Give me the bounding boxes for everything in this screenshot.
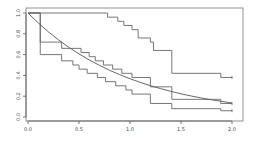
x-tick-label: 1.5 bbox=[177, 126, 185, 132]
y-axis: 0.00.20.40.60.81.0 bbox=[15, 9, 26, 121]
km-upper bbox=[28, 13, 232, 77]
exponential-curve bbox=[28, 13, 232, 103]
x-tick-label: 2.0 bbox=[228, 126, 236, 132]
series-layer bbox=[28, 13, 232, 112]
x-tick-label: 0.0 bbox=[24, 126, 32, 132]
y-tick-label: 0.0 bbox=[15, 113, 21, 121]
y-tick-label: 0.4 bbox=[15, 71, 21, 79]
x-axis: 0.00.51.01.52.0 bbox=[24, 121, 236, 132]
survival-chart: 0.00.20.40.60.81.0 0.00.51.01.52.0 bbox=[0, 0, 254, 142]
y-tick-label: 0.6 bbox=[15, 51, 21, 59]
x-tick-label: 1.0 bbox=[126, 126, 134, 132]
y-tick-label: 0.8 bbox=[15, 30, 21, 38]
km-lower bbox=[28, 13, 232, 111]
x-tick-label: 0.5 bbox=[75, 126, 83, 132]
plot-box bbox=[26, 8, 243, 121]
y-tick-label: 1.0 bbox=[15, 9, 21, 17]
y-tick-label: 0.2 bbox=[15, 92, 21, 100]
